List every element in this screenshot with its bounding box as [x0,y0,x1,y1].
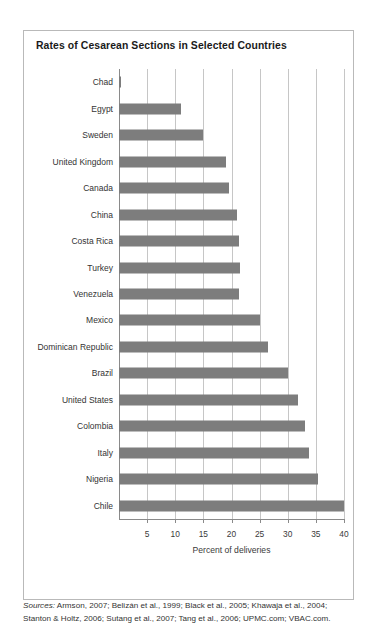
category-label: Venezuela [73,289,113,299]
bar [119,130,203,141]
bar [119,103,181,114]
gridline-40 [344,69,345,519]
x-tick-label-15: 15 [199,529,208,539]
bar [119,209,237,220]
chart-row: China [119,201,344,227]
category-label: Mexico [86,315,113,325]
chart-row: Venezuela [119,281,344,307]
category-label: Egypt [91,104,113,114]
bar [119,394,298,405]
bar [119,236,239,247]
bar [119,156,226,167]
chart-row: Canada [119,175,344,201]
category-label: Sweden [82,130,113,140]
bar [119,500,344,511]
category-label: Italy [97,448,113,458]
tick-mark-5 [147,519,148,523]
tick-mark-35 [316,519,317,523]
tick-mark-25 [260,519,261,523]
category-label: China [91,210,113,220]
x-tick-label-5: 5 [145,529,150,539]
chart-row: Costa Rica [119,228,344,254]
x-axis-label: Percent of deliveries [119,545,344,555]
chart-row: Turkey [119,254,344,280]
x-tick-label-20: 20 [227,529,236,539]
bar [119,315,260,326]
chart-row: Mexico [119,307,344,333]
category-label: Canada [83,183,113,193]
chart-row: Chad [119,69,344,95]
bar [119,447,309,458]
bar [119,262,240,273]
sources-prefix: Sources: [23,601,55,610]
chart-row: Italy [119,440,344,466]
chart-row: United Kingdom [119,148,344,174]
bar [119,77,121,88]
x-tick-label-30: 30 [283,529,292,539]
sources-line-2: Stanton & Holtz, 2006; Sutang et al., 20… [23,614,331,623]
x-tick-label-40: 40 [339,529,348,539]
bar [119,288,239,299]
chart-row: United States [119,387,344,413]
bar [119,421,305,432]
chart-row: Egypt [119,95,344,121]
category-label: Costa Rica [71,236,113,246]
category-label: Nigeria [86,474,113,484]
chart-panel: Rates of Cesarean Sections in Selected C… [23,30,354,600]
tick-mark-15 [203,519,204,523]
tick-mark-20 [232,519,233,523]
page-title: Rates of Cesarean Sections in Selected C… [36,40,287,51]
tick-mark-30 [288,519,289,523]
chart-row: Sweden [119,122,344,148]
figure-root: Rates of Cesarean Sections in Selected C… [0,0,370,624]
tick-mark-10 [175,519,176,523]
category-label: United States [62,395,113,405]
chart-row: Brazil [119,360,344,386]
x-tick-label-10: 10 [171,529,180,539]
category-label: United Kingdom [53,157,113,167]
bar [119,368,288,379]
category-label: Dominican Republic [37,342,113,352]
plot-area: 510152025303540 ChadEgyptSwedenUnited Ki… [119,69,344,519]
category-label: Brazil [92,368,113,378]
x-tick-label-25: 25 [255,529,264,539]
bar [119,341,268,352]
sources-line-1: Armson, 2007; Belizán et al., 1999; Blac… [55,601,327,610]
sources-footnote: Sources: Armson, 2007; Belizán et al., 1… [23,600,354,624]
category-label: Colombia [77,421,113,431]
bar [119,474,318,485]
chart-row: Dominican Republic [119,334,344,360]
category-label: Chile [94,501,113,511]
x-tick-label-35: 35 [311,529,320,539]
chart-row: Nigeria [119,466,344,492]
chart-row: Chile [119,493,344,519]
category-label: Turkey [87,263,113,273]
category-label: Chad [93,77,113,87]
chart-row: Colombia [119,413,344,439]
tick-mark-40 [344,519,345,523]
bar [119,183,229,194]
